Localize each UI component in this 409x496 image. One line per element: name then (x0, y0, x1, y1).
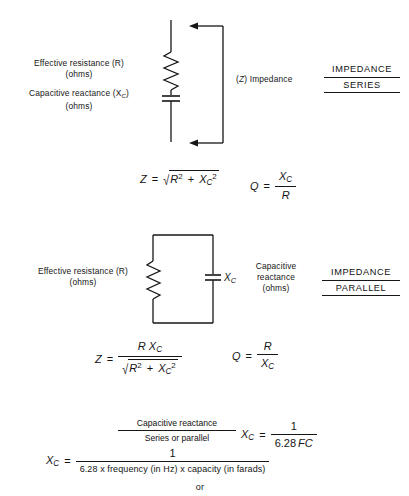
reactance-short-denominator: 6.28FC (271, 437, 317, 450)
series-heading-line1: IMPEDANCE (324, 62, 400, 78)
reactance-block-title: Capacitive reactance Series or parallel (118, 417, 236, 444)
parallel-resistance-label: Effective resistance (R) (ohms) (18, 266, 148, 288)
parallel-z-equals: = (107, 353, 113, 365)
reactance-short-formula: XC = 1 6.28FC (241, 420, 317, 450)
fraction-bar (271, 434, 317, 435)
series-q-lhs: Q (250, 180, 259, 192)
parallel-heading-line2: PARALLEL (322, 281, 400, 297)
series-circuit-diagram (140, 18, 240, 153)
series-z-radical: √ R2 + XC2 (163, 170, 219, 187)
fraction-bar (275, 186, 296, 187)
fraction-bar (76, 461, 270, 462)
series-q-fraction: XC R (275, 170, 296, 202)
parallel-q-numerator: R (260, 340, 276, 353)
parallel-q-formula: Q = R XC (232, 340, 278, 372)
series-q-formula: Q = XC R (250, 170, 296, 202)
reactance-block-footer: or (180, 482, 220, 493)
parallel-reactance-label-line2: reactance (240, 272, 312, 283)
parallel-z-lhs: Z (95, 353, 102, 365)
radical-sign-icon: √ (122, 363, 128, 377)
reactance-long-equals: = (64, 455, 70, 467)
series-z-lhs: Z (140, 173, 147, 185)
fraction-bar (118, 356, 182, 357)
reactance-long-lhs: XC (46, 454, 59, 468)
parallel-z-denominator: √ R2 + XC2 (118, 359, 182, 377)
arrow-head-top-left-icon (189, 23, 198, 30)
parallel-z-fraction: R XC √ R2 + XC2 (118, 340, 182, 377)
parallel-resistance-label-line1: Effective resistance (R) (18, 266, 148, 277)
series-q-denominator: R (278, 189, 294, 202)
reactance-long-fraction: 1 6.28 x frequency (in Hz) x capacity (i… (76, 447, 270, 475)
series-z-equals: = (152, 173, 158, 185)
series-impedance-label: (Z) Impedance (236, 74, 292, 85)
series-resistance-label-line2: (ohms) (14, 69, 144, 80)
reactance-title-line2: Series or parallel (118, 431, 236, 444)
parallel-circuit-diagram (146, 230, 226, 330)
series-reactance-label: Capacitive reactance (XC) (ohms) (10, 88, 148, 112)
series-resistance-label-line1: Effective resistance (R) (14, 58, 144, 69)
parallel-reactance-label-line1: Capacitive (240, 261, 312, 272)
series-section-heading: IMPEDANCE SERIES (324, 62, 400, 93)
reactance-short-lhs: XC (241, 428, 254, 442)
parallel-capacitor-symbol: XC (224, 272, 236, 286)
series-heading-line2: SERIES (324, 78, 400, 94)
arrow-head-bottom-left-icon (189, 140, 198, 147)
parallel-impedance-formula: Z = R XC √ R2 + XC2 (95, 340, 182, 377)
parallel-resistance-label-line2: (ohms) (18, 277, 148, 288)
series-q-equals: = (264, 180, 270, 192)
resistor-zigzag-icon (164, 52, 178, 90)
series-circuit-svg (140, 18, 240, 153)
series-reactance-label-line2: (ohms) (10, 101, 148, 112)
series-impedance-formula: Z = √ R2 + XC2 (140, 170, 219, 187)
series-z-radicand: R2 + XC2 (169, 170, 219, 187)
parallel-reactance-label: Capacitive reactance (ohms) (240, 261, 312, 294)
series-reactance-label-line1: Capacitive reactance (XC) (10, 88, 148, 101)
reactance-title-line1: Capacitive reactance (118, 417, 236, 431)
parallel-q-fraction: R XC (257, 340, 278, 372)
parallel-circuit-svg (146, 230, 226, 330)
radical-sign-icon: √ (163, 174, 169, 188)
parallel-heading-line1: IMPEDANCE (322, 265, 400, 281)
parallel-z-numerator: R XC (134, 340, 166, 355)
series-q-numerator: XC (275, 170, 296, 185)
reactance-long-denominator: 6.28 x frequency (in Hz) x capacity (in … (76, 464, 270, 475)
parallel-q-denominator: XC (257, 357, 278, 372)
fraction-bar (257, 354, 278, 355)
parallel-q-equals: = (246, 350, 252, 362)
parallel-reactance-label-line3: (ohms) (240, 283, 312, 294)
series-resistance-label: Effective resistance (R) (ohms) (14, 58, 144, 80)
reactance-long-numerator: 1 (165, 447, 179, 460)
reactance-short-equals: = (259, 429, 265, 441)
parallel-resistor-zigzag-icon (147, 261, 160, 299)
reactance-long-formula: XC = 1 6.28 x frequency (in Hz) x capaci… (46, 447, 269, 475)
parallel-q-lhs: Q (232, 350, 241, 362)
reactance-short-fraction: 1 6.28FC (271, 420, 317, 450)
parallel-section-heading: IMPEDANCE PARALLEL (322, 265, 400, 296)
reactance-short-numerator: 1 (287, 420, 301, 433)
